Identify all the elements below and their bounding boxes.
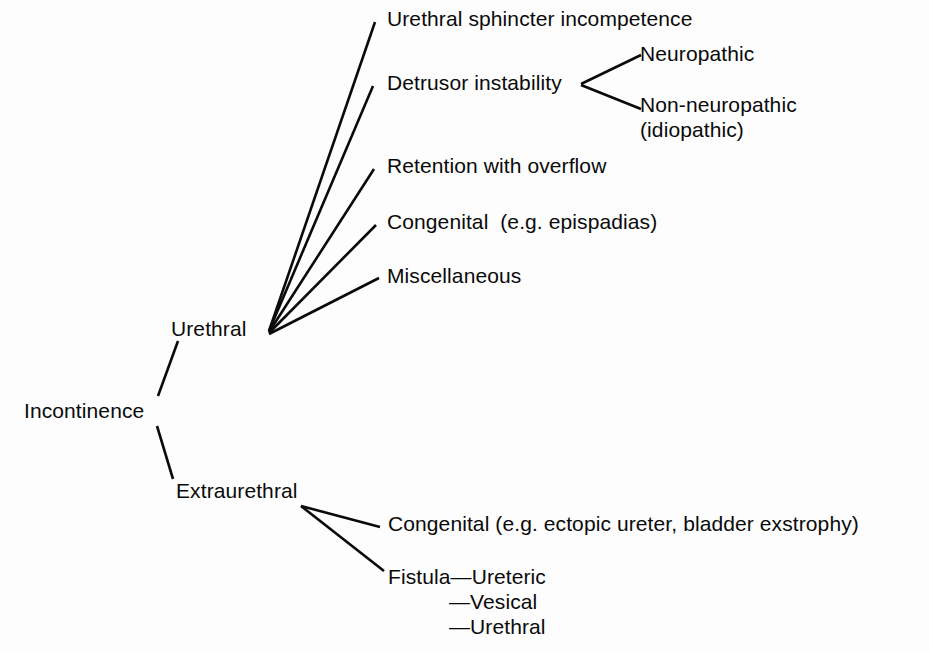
- node-non-neuropathic-idiopathic: Non-neuropathic (idiopathic): [640, 92, 797, 142]
- node-congenital-ectopic-ureter: Congenital (e.g. ectopic ureter, bladder…: [388, 511, 859, 536]
- node-detrusor-instability: Detrusor instability: [387, 70, 562, 95]
- edge-detrusor-neuropathic: [581, 55, 641, 84]
- node-retention-with-overflow: Retention with overflow: [387, 153, 606, 178]
- node-urethral: Urethral: [171, 316, 247, 341]
- edge-detrusor-non-neuropathic: [581, 85, 641, 109]
- node-fistula-urethral: —Urethral: [449, 614, 546, 639]
- edge-urethral-congenital: [269, 225, 376, 333]
- edge-urethral-sphincter-incompetence: [269, 22, 375, 331]
- node-incontinence: Incontinence: [24, 398, 144, 423]
- node-extraurethral: Extraurethral: [176, 478, 298, 503]
- node-miscellaneous: Miscellaneous: [387, 263, 521, 288]
- edge-incontinence-urethral: [158, 341, 178, 396]
- edge-urethral-detrusor-instability: [269, 86, 373, 331]
- node-fistula-ureteric: Fistula—Ureteric: [388, 564, 546, 589]
- node-urethral-sphincter-incompetence: Urethral sphincter incompetence: [387, 6, 692, 31]
- node-fistula-vesical: —Vesical: [449, 589, 537, 614]
- incontinence-tree-diagram: Incontinence Urethral Extraurethral Uret…: [0, 0, 929, 652]
- node-neuropathic: Neuropathic: [640, 41, 754, 66]
- node-congenital-epispadias: Congenital (e.g. epispadias): [387, 209, 657, 234]
- edge-incontinence-extraurethral: [157, 426, 173, 479]
